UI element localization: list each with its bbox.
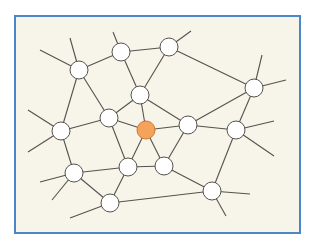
graph-node [70, 61, 88, 79]
graph-node [179, 116, 197, 134]
graph-node [203, 182, 221, 200]
graph-node [160, 38, 178, 56]
graph-node [245, 79, 263, 97]
graph-node [52, 122, 70, 140]
graph-node [112, 43, 130, 61]
graph-node [227, 121, 245, 139]
graph-node [65, 164, 83, 182]
graph-node [155, 157, 173, 175]
graph-node [100, 109, 118, 127]
network-diagram [0, 0, 313, 248]
graph-node [119, 158, 137, 176]
graph-node [101, 194, 119, 212]
highlighted-node [137, 121, 155, 139]
graph-node [131, 86, 149, 104]
